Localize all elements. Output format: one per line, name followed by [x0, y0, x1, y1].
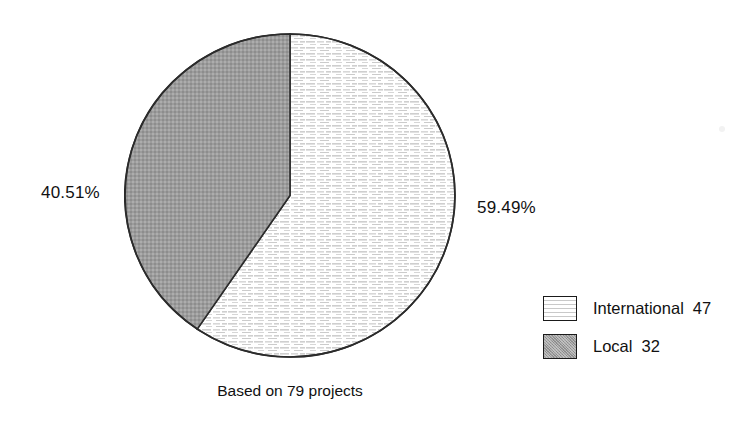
legend-value-international: 47: [693, 299, 711, 317]
legend-item-local[interactable]: Local32: [543, 331, 711, 362]
legend-swatch-local-icon: [543, 334, 577, 359]
slice-percent-label-local: 40.51%: [41, 183, 100, 203]
legend-label-local: Local32: [593, 337, 660, 356]
pie-svg: [124, 33, 456, 358]
scan-artifact-speck: [719, 126, 725, 132]
legend-label-international: International47: [593, 299, 711, 318]
legend-value-local: 32: [641, 337, 659, 355]
chart-legend: International47 Local32: [543, 293, 711, 362]
pie-chart-figure: 40.51% 59.49% International47 Local32 Ba…: [0, 0, 749, 429]
slice-percent-label-international: 59.49%: [477, 198, 536, 218]
legend-item-international[interactable]: International47: [543, 293, 711, 324]
legend-name-local: Local: [593, 337, 632, 355]
chart-caption: Based on 79 projects: [0, 382, 580, 400]
pie-chart-graphic: [124, 33, 456, 358]
legend-swatch-international-icon: [543, 296, 577, 321]
legend-name-international: International: [593, 299, 684, 317]
